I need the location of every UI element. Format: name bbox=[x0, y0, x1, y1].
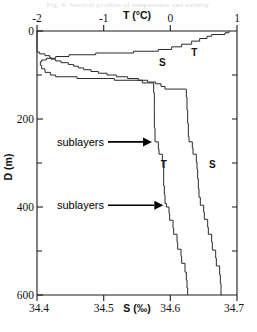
bottom-tick-label-1: 34.5 bbox=[94, 302, 114, 314]
annotation-label: sublayers bbox=[57, 136, 105, 148]
figure-header-text: Fig. 4. Vertical profiles of temperature… bbox=[28, 0, 228, 11]
bottom-axis-title: S (‰) bbox=[123, 302, 150, 314]
curve-label-temperature-lower: T bbox=[161, 159, 167, 170]
top-tick-label-1: -1 bbox=[99, 12, 109, 24]
annotation-sublayers-lower: sublayers bbox=[57, 199, 163, 211]
depth-axis-tick-labels: 0 200 400 600 bbox=[17, 25, 35, 301]
depth-tick-label-1: 200 bbox=[17, 113, 35, 125]
top-tick-label-3: 1 bbox=[234, 12, 240, 24]
top-tick-label-0: -2 bbox=[32, 12, 42, 24]
bottom-tick-label-2: 34.6 bbox=[160, 302, 180, 314]
bottom-tick-label-0: 34.4 bbox=[29, 302, 49, 314]
top-tick-label-2: 0 bbox=[167, 12, 173, 24]
depth-tick-label-3: 600 bbox=[17, 289, 35, 301]
depth-axis-ticks bbox=[37, 31, 43, 295]
top-axis-ticks bbox=[37, 25, 237, 31]
right-axis-ticks bbox=[232, 75, 237, 251]
curve-label-salinity-lower: S bbox=[209, 159, 216, 170]
depth-axis-title: D (m) bbox=[2, 154, 14, 181]
arrow-head-icon bbox=[154, 201, 163, 210]
depth-tick-label-0: 0 bbox=[28, 25, 34, 37]
arrow-head-icon bbox=[143, 137, 152, 146]
annotation-label: sublayers bbox=[57, 199, 105, 211]
temperature-curve bbox=[40, 31, 229, 295]
plot-frame bbox=[37, 31, 237, 295]
bottom-tick-label-3: 34.7 bbox=[224, 302, 244, 314]
salinity-curve bbox=[37, 31, 222, 295]
depth-tick-label-2: 400 bbox=[17, 201, 35, 213]
annotation-sublayers-upper: sublayers bbox=[57, 136, 152, 148]
curve-label-temperature-upper: T bbox=[191, 47, 197, 58]
bottom-axis-ticks bbox=[37, 295, 237, 301]
curve-label-salinity-upper: S bbox=[159, 57, 166, 68]
profile-chart: -2 -1 0 1 T (°C) 34.4 34.5 34.6 34.7 S (… bbox=[0, 0, 257, 332]
figure-panel: Fig. 4. Vertical profiles of temperature… bbox=[0, 0, 257, 332]
